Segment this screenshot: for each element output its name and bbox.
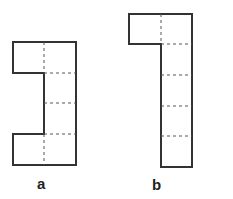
figure-b [129,14,192,167]
nets-diagram [0,0,233,199]
figure-b-label: b [152,176,161,193]
figure-a-label: a [37,175,45,192]
figure-a [13,42,76,165]
